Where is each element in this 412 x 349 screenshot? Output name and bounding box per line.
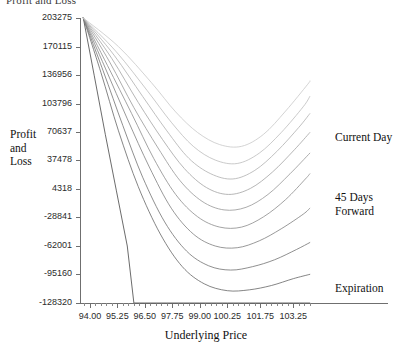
x-tick-minor	[277, 303, 278, 306]
x-tick	[293, 303, 294, 308]
x-tick-minor	[84, 303, 85, 306]
x-tick-minor	[150, 303, 151, 306]
curve-curve-5	[83, 18, 309, 228]
x-tick-minor	[216, 303, 217, 306]
y-tick	[76, 75, 81, 76]
annotation-45-days: 45 Days	[335, 191, 373, 205]
annotation-expiration: Expiration	[335, 282, 384, 296]
y-tick-label: 203275	[16, 12, 72, 22]
x-tick-minor	[222, 303, 223, 306]
x-tick-minor	[266, 303, 267, 306]
y-tick-label: 103796	[16, 98, 72, 108]
clipped-title: Profit and Loss	[6, 0, 76, 6]
x-tick-minor	[255, 303, 256, 306]
x-tick-minor	[167, 303, 168, 306]
y-tick-label: -95160	[16, 268, 72, 278]
x-tick-label: 103.25	[271, 311, 315, 321]
x-tick-minor	[310, 303, 311, 306]
curve-curve-4	[83, 18, 309, 248]
x-tick-minor	[205, 303, 206, 306]
y-tick	[76, 132, 81, 133]
x-tick-minor	[134, 303, 135, 306]
x-tick-minor	[238, 303, 239, 306]
y-tick-label: 70637	[16, 126, 72, 136]
chart-root: Profit and Loss Profit and Loss 20327517…	[0, 0, 412, 349]
curve-curve-3	[83, 18, 309, 270]
x-tick-minor	[106, 303, 107, 306]
y-tick-label: -62001	[16, 240, 72, 250]
x-tick-minor	[194, 303, 195, 306]
x-tick-minor	[282, 303, 283, 306]
x-tick	[145, 303, 146, 308]
x-tick-minor	[299, 303, 300, 306]
x-tick-minor	[112, 303, 113, 306]
x-tick	[117, 303, 118, 308]
y-tick	[76, 246, 81, 247]
x-tick-minor	[183, 303, 184, 306]
x-tick-minor	[233, 303, 234, 306]
x-tick-minor	[211, 303, 212, 306]
x-axis-line	[80, 303, 388, 304]
x-tick	[172, 303, 173, 308]
y-tick-label: 170115	[16, 41, 72, 51]
annotation-current-day: Current Day	[335, 131, 392, 145]
y-axis-title-line2: and	[10, 142, 56, 156]
y-tick	[76, 303, 81, 304]
x-tick	[200, 303, 201, 308]
y-tick-label: -128320	[16, 297, 72, 307]
x-tick-minor	[95, 303, 96, 306]
curve-current-day	[83, 18, 310, 147]
x-tick-minor	[128, 303, 129, 306]
x-axis-title: Underlying Price	[0, 328, 412, 343]
curve-expiration	[83, 18, 309, 303]
curve-curve-8	[83, 18, 309, 179]
y-tick-label: 4318	[16, 183, 72, 193]
y-tick	[76, 104, 81, 105]
y-tick-label: 37478	[16, 154, 72, 164]
curve-45-days-forward	[83, 18, 309, 210]
y-tick	[76, 217, 81, 218]
x-tick	[90, 303, 91, 308]
y-tick	[76, 160, 81, 161]
x-tick-minor	[271, 303, 272, 306]
x-tick-minor	[288, 303, 289, 306]
y-tick	[76, 274, 81, 275]
curve-curve-9	[83, 18, 309, 164]
x-tick-minor	[244, 303, 245, 306]
x-tick-minor	[249, 303, 250, 306]
y-tick	[76, 189, 81, 190]
x-tick-minor	[189, 303, 190, 306]
x-tick-minor	[161, 303, 162, 306]
x-tick-minor	[156, 303, 157, 306]
x-tick-minor	[178, 303, 179, 306]
y-tick-label: -28841	[16, 211, 72, 221]
annotation-forward: Forward	[335, 205, 374, 219]
y-tick-label: 136956	[16, 69, 72, 79]
x-tick-minor	[304, 303, 305, 306]
x-tick-minor	[101, 303, 102, 306]
x-tick	[227, 303, 228, 308]
x-tick	[260, 303, 261, 308]
curve-curve-2	[83, 18, 309, 291]
curve-curve-7	[83, 18, 309, 194]
x-tick-minor	[123, 303, 124, 306]
y-tick	[76, 18, 81, 19]
x-tick-minor	[139, 303, 140, 306]
y-tick	[76, 47, 81, 48]
